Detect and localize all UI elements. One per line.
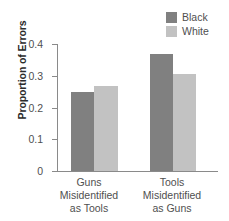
x-category-label-tools: Tools Misidentified as Guns [117, 176, 227, 215]
y-tick-mark-0: 0 [52, 171, 57, 172]
x-category-label-tools-line1: Tools [117, 176, 227, 189]
legend-item-black: Black [166, 11, 228, 24]
bar-tools-white [173, 74, 196, 171]
y-tick-mark-0-2: 0.2 [52, 108, 57, 109]
x-category-label-tools-line2: Misidentified [117, 189, 227, 202]
bar-chart-figure: Black White Proportion of Errors 0.4 0.3… [0, 0, 229, 221]
y-axis-line [57, 44, 58, 171]
y-tick-label-0-4: 0.4 [28, 38, 43, 50]
y-tick-label-0-3: 0.3 [28, 70, 43, 82]
y-axis-title: Proportion of Errors [16, 1, 28, 139]
plot-area: 0.4 0.3 0.2 0.1 0 [57, 44, 218, 171]
y-tick-mark-0-1: 0.1 [52, 139, 57, 140]
legend-swatch-white-icon [166, 26, 177, 37]
y-tick-label-0-2: 0.2 [28, 102, 43, 114]
chart-legend: Black White [166, 11, 228, 39]
y-tick-mark-0-4: 0.4 [52, 44, 57, 45]
x-axis-line [57, 171, 218, 172]
legend-label-black: Black [182, 12, 208, 23]
legend-label-white: White [182, 26, 209, 37]
bar-tools-black [150, 54, 173, 171]
bar-guns-black [71, 92, 94, 171]
bar-guns-white [94, 86, 118, 171]
legend-swatch-black-icon [166, 12, 177, 23]
y-tick-mark-0-3: 0.3 [52, 76, 57, 77]
y-tick-label-0-1: 0.1 [28, 133, 43, 145]
legend-item-white: White [166, 25, 228, 38]
x-category-label-tools-line3: as Guns [117, 202, 227, 215]
